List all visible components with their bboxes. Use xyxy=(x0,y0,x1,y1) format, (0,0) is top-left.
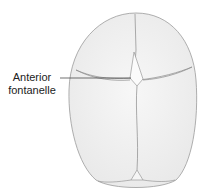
anterior-fontanelle-label: Anterior fontanelle xyxy=(6,71,58,97)
skull-outline xyxy=(69,13,197,188)
label-line-2: fontanelle xyxy=(6,84,58,97)
label-line-1: Anterior xyxy=(6,71,58,84)
